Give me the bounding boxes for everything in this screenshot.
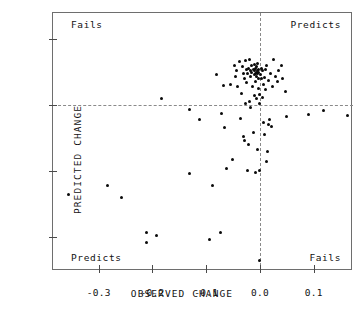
data-point [257, 87, 260, 90]
data-point [346, 114, 349, 117]
x-axis-tick-inner [314, 265, 315, 269]
data-point [235, 69, 238, 72]
data-point [276, 80, 279, 83]
data-point [245, 81, 248, 84]
x-axis-tick-inner [206, 265, 207, 269]
data-point [258, 169, 261, 172]
data-point [211, 184, 214, 187]
data-point [208, 238, 211, 241]
data-point [223, 126, 226, 129]
data-point [234, 75, 237, 78]
data-point [263, 133, 266, 136]
data-point [240, 92, 243, 95]
data-point [255, 97, 258, 100]
vertical-zero-reference-line [260, 13, 261, 271]
data-point [222, 84, 225, 87]
data-point [219, 231, 222, 234]
data-point [247, 143, 250, 146]
data-point [258, 102, 261, 105]
data-point [266, 150, 269, 153]
data-point [246, 169, 249, 172]
data-point [268, 118, 271, 121]
data-point [259, 73, 262, 76]
data-point [262, 121, 265, 124]
data-point [269, 72, 272, 75]
data-point [220, 112, 223, 115]
data-point [265, 64, 268, 67]
data-point [307, 113, 310, 116]
data-point [243, 139, 246, 142]
y-axis-tick-inner [53, 105, 57, 106]
data-point [272, 58, 275, 61]
data-point [264, 68, 267, 71]
data-point [280, 64, 283, 67]
data-point [225, 167, 228, 170]
data-point [120, 196, 123, 199]
data-point [239, 117, 242, 120]
data-point [244, 59, 247, 62]
data-point [248, 58, 251, 61]
scatter-plot-figure: Fails Predicts Predicts Fails 500-50-100… [0, 0, 364, 309]
quadrant-label-bottom-left: Predicts [71, 252, 122, 263]
data-point [238, 60, 241, 63]
data-point [249, 75, 252, 78]
data-point [258, 259, 261, 262]
data-point [248, 100, 251, 103]
data-point [243, 77, 246, 80]
data-point [231, 158, 234, 161]
data-point [256, 62, 259, 65]
data-point [274, 75, 277, 78]
data-point [256, 148, 259, 151]
data-point [254, 80, 257, 83]
data-point [233, 64, 236, 67]
data-point [263, 76, 266, 79]
data-point [188, 172, 191, 175]
data-point [270, 125, 273, 128]
y-axis-tick-inner [53, 237, 57, 238]
plot-area: Fails Predicts Predicts Fails 500-50-100… [52, 12, 352, 270]
x-axis-tick-inner [152, 265, 153, 269]
data-point [281, 77, 284, 80]
data-point [188, 108, 191, 111]
data-point [244, 102, 247, 105]
data-point [229, 83, 232, 86]
data-point [262, 83, 265, 86]
data-point [242, 135, 245, 138]
data-point [252, 131, 255, 134]
data-point [271, 85, 274, 88]
data-point [236, 85, 239, 88]
data-point [249, 106, 252, 109]
data-point [254, 171, 257, 174]
y-axis-title: PREDICTED CHANGE [72, 80, 83, 240]
data-point [285, 115, 288, 118]
x-axis-tick-inner [260, 265, 261, 269]
data-point [261, 96, 264, 99]
data-point [67, 193, 70, 196]
quadrant-label-top-right: Predicts [290, 19, 341, 30]
data-point [145, 241, 148, 244]
data-point [106, 184, 109, 187]
data-point [265, 160, 268, 163]
data-point [322, 109, 325, 112]
data-point [264, 88, 267, 91]
y-axis-tick-inner [53, 39, 57, 40]
data-point [251, 85, 254, 88]
x-axis-title: OBSERVED CHANGE [0, 288, 364, 299]
data-point [277, 69, 280, 72]
horizontal-zero-reference-line [53, 105, 353, 106]
data-point [242, 72, 245, 75]
data-point [155, 234, 158, 237]
data-point [267, 79, 270, 82]
data-point [215, 73, 218, 76]
data-point [241, 65, 244, 68]
y-axis-tick-inner [53, 171, 57, 172]
data-point [198, 118, 201, 121]
quadrant-label-top-left: Fails [71, 19, 103, 30]
quadrant-label-bottom-right: Fails [309, 252, 341, 263]
data-point [160, 97, 163, 100]
data-point [284, 90, 287, 93]
x-axis-tick-inner [99, 265, 100, 269]
data-point [145, 231, 148, 234]
